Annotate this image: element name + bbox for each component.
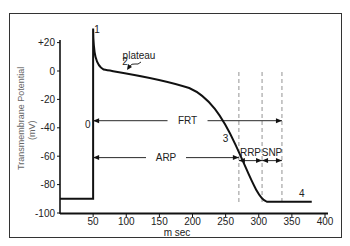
y-tick-label: -80	[41, 179, 56, 190]
y-axis-label-line2: (mV)	[27, 121, 37, 141]
x-ticks: 50100150200250300350400	[88, 213, 334, 227]
action-potential-chart: +200-20-40-60-80-100 5010015020025030035…	[0, 0, 350, 246]
period-label-frt: FRT	[178, 115, 197, 126]
arrowhead-icon	[262, 158, 268, 163]
y-ticks: +200-20-40-60-80-100	[35, 37, 60, 218]
y-tick-label: -100	[35, 208, 55, 219]
period-label-arp: ARP	[156, 152, 177, 163]
y-axis-label-line1: Transmembrane Potential	[16, 67, 26, 170]
y-tick-label: -40	[41, 122, 56, 133]
phase-label-1: 1	[94, 24, 100, 35]
phase-label-4: 4	[299, 188, 305, 199]
x-axis-label: m sec	[164, 227, 191, 238]
x-tick-label: 200	[184, 216, 201, 227]
x-tick-label: 150	[151, 216, 168, 227]
x-tick-label: 50	[88, 216, 100, 227]
phase-label-3: 3	[223, 133, 229, 144]
period-label-snp: SNP	[262, 147, 283, 158]
x-tick-label: 100	[118, 216, 135, 227]
period-label-rrp: RRP	[240, 147, 261, 158]
y-tick-label: -20	[41, 94, 56, 105]
arrowhead-icon	[256, 158, 262, 163]
arrowhead-icon	[233, 155, 239, 160]
arrowhead-icon	[276, 118, 282, 123]
y-tick-label: 0	[49, 66, 55, 77]
x-tick-label: 350	[284, 216, 301, 227]
y-tick-label: +20	[38, 37, 55, 48]
refractory-boundaries	[239, 72, 282, 202]
y-tick-label: -60	[41, 151, 56, 162]
x-tick-label: 400	[317, 216, 334, 227]
x-tick-label: 300	[250, 216, 267, 227]
period-annotations: FRTARPRRPSNP	[93, 115, 282, 163]
arrowhead-icon	[276, 158, 282, 163]
plateau-label: plateau	[123, 50, 156, 61]
phase-labels: 01234	[85, 24, 305, 200]
x-tick-label: 250	[217, 216, 234, 227]
plateau-annotation: plateau	[123, 50, 156, 70]
phase-label-0: 0	[85, 119, 91, 130]
